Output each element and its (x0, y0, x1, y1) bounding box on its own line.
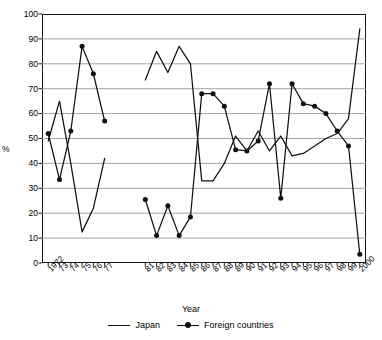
legend-item-japan: Japan (108, 320, 160, 330)
gridlines (42, 39, 366, 238)
chart-figure: 0102030405060708090100 % 197273747576778… (0, 0, 382, 340)
y-tick-label: 50 (12, 134, 38, 143)
y-tick-label: 20 (12, 209, 38, 218)
legend-label: Japan (135, 320, 160, 330)
legend-line-icon (108, 320, 130, 330)
y-axis-label: % (2, 144, 10, 154)
y-tick-label: 10 (12, 234, 38, 243)
y-tick-label: 30 (12, 184, 38, 193)
legend-item-foreign-countries: Foreign countries (177, 320, 274, 330)
legend-line-marker-icon (177, 320, 199, 330)
legend-label: Foreign countries (204, 320, 274, 330)
chart-legend: Japan Foreign countries (0, 320, 382, 330)
y-tick-label: 100 (12, 10, 38, 19)
data-series (46, 29, 363, 257)
x-axis-label: Year (0, 304, 382, 314)
y-tick-label: 70 (12, 85, 38, 94)
y-axis-ticks (39, 14, 43, 263)
y-tick-label: 80 (12, 60, 38, 69)
y-tick-label: 90 (12, 35, 38, 44)
x-axis-tick-labels: 1972737475767781828384858687888990919293… (0, 266, 382, 306)
y-tick-label: 60 (12, 109, 38, 118)
y-tick-label: 40 (12, 159, 38, 168)
